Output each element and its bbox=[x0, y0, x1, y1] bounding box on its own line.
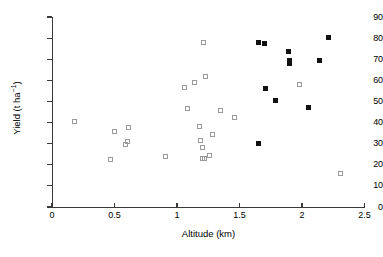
data-point-open bbox=[197, 124, 202, 129]
data-point-open bbox=[163, 154, 168, 159]
data-point-open bbox=[200, 145, 205, 150]
data-point-open bbox=[185, 106, 190, 111]
data-point-open bbox=[207, 153, 212, 158]
data-point-open bbox=[192, 80, 197, 85]
data-point-open bbox=[198, 138, 203, 143]
data-point-filled bbox=[263, 86, 268, 91]
data-point-filled bbox=[306, 105, 311, 110]
data-point-open bbox=[72, 119, 77, 124]
data-point-open bbox=[210, 132, 215, 137]
data-point-filled bbox=[326, 35, 331, 40]
data-point-open bbox=[125, 139, 130, 144]
data-point-open bbox=[112, 129, 117, 134]
data-point-open bbox=[108, 157, 113, 162]
data-point-filled bbox=[262, 41, 267, 46]
data-point-filled bbox=[273, 98, 278, 103]
data-point-open bbox=[201, 40, 206, 45]
data-point-filled bbox=[287, 58, 292, 63]
data-point-open bbox=[182, 85, 187, 90]
data-point-filled bbox=[256, 141, 261, 146]
data-point-open bbox=[297, 82, 302, 87]
data-point-filled bbox=[317, 58, 322, 63]
plot-area bbox=[0, 0, 383, 257]
data-point-open bbox=[203, 74, 208, 79]
data-point-open bbox=[232, 115, 237, 120]
data-point-open bbox=[126, 125, 131, 130]
scatter-plot-figure: 0102030405060708090 00.511.522.5 Altitud… bbox=[0, 0, 383, 257]
data-point-open bbox=[218, 108, 223, 113]
data-point-open bbox=[338, 171, 343, 176]
data-point-filled bbox=[256, 40, 261, 45]
data-point-filled bbox=[286, 49, 291, 54]
